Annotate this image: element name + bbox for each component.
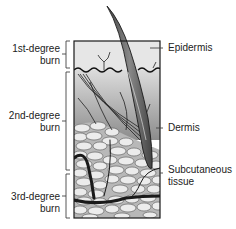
bracket-1st-degree — [62, 41, 70, 68]
label-epidermis: Epidermis — [168, 42, 212, 54]
label-line: burn — [12, 55, 60, 67]
label-line: 3rd-degree — [11, 191, 60, 203]
label-line: 1st-degree — [12, 43, 60, 55]
label-subcutaneous-tissue: Subcutaneous tissue — [168, 164, 232, 188]
label-line: burn — [9, 122, 60, 134]
label-dermis: Dermis — [168, 122, 200, 134]
left-brackets — [62, 41, 70, 218]
label-line: Subcutaneous — [168, 164, 232, 176]
label-3rd-degree-burn: 3rd-degree burn — [11, 191, 60, 215]
label-1st-degree-burn: 1st-degree burn — [12, 43, 60, 67]
label-2nd-degree-burn: 2nd-degree burn — [9, 110, 60, 134]
skin-layers — [73, 41, 164, 220]
label-line: burn — [11, 203, 60, 215]
epidermis-layer — [74, 41, 160, 73]
bracket-2nd-degree — [62, 72, 70, 170]
label-line: 2nd-degree — [9, 110, 60, 122]
label-line: tissue — [168, 176, 232, 188]
bracket-3rd-degree — [62, 174, 70, 218]
burn-degrees-diagram: 1st-degree burn 2nd-degree burn 3rd-degr… — [0, 0, 236, 229]
